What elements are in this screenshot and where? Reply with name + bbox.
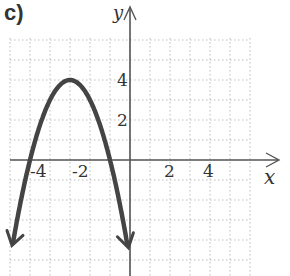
x-tick-label: 2 [164,161,175,181]
x-tick-label: 4 [203,161,214,181]
x-axis-label: x [264,165,275,189]
y-axis-label: y [113,2,123,23]
chart-canvas [0,0,290,276]
y-tick-label: 4 [117,70,128,90]
x-tick-label: -4 [30,161,47,181]
y-tick-label: 2 [117,110,128,130]
x-tick-label: -2 [72,161,89,181]
